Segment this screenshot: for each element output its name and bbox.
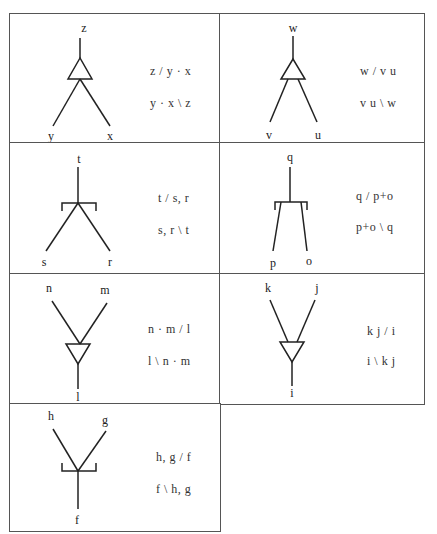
diagram-cell-f: h g f h, g / f f \ h, g xyxy=(9,403,221,532)
merging-tree-bracket-icon: h g f xyxy=(10,404,222,533)
svg-text:t: t xyxy=(77,152,81,166)
diagram-cell-z: z y x z / y · x y · x \ z xyxy=(9,13,221,144)
diagram-cell-w: w v u w / v u v u \ w xyxy=(219,13,425,144)
svg-text:l: l xyxy=(76,390,80,404)
svg-text:u: u xyxy=(315,128,321,142)
formula-backward: f \ h, g xyxy=(156,482,191,497)
svg-text:s: s xyxy=(42,255,47,269)
svg-text:w: w xyxy=(289,21,298,35)
svg-text:p: p xyxy=(270,256,276,270)
svg-text:z: z xyxy=(81,21,86,35)
svg-text:o: o xyxy=(306,254,312,268)
branching-tree-triangle-icon: z y x xyxy=(10,14,222,145)
merging-tree-triangle-icon: n m l xyxy=(10,274,222,406)
formula-forward: z / y · x xyxy=(150,64,191,79)
formula-forward: w / v u xyxy=(360,64,397,79)
svg-text:y: y xyxy=(48,129,54,143)
formula-backward: p+o \ q xyxy=(356,220,394,235)
svg-text:g: g xyxy=(102,413,108,427)
diagram-cell-i: k j i k j / i i \ k j xyxy=(219,273,425,405)
svg-text:i: i xyxy=(290,386,294,400)
formula-forward: t / s, r xyxy=(158,191,189,206)
formula-forward: k j / i xyxy=(367,324,396,339)
svg-text:q: q xyxy=(287,150,293,164)
svg-text:n: n xyxy=(46,281,52,295)
formula-forward: h, g / f xyxy=(156,450,191,465)
formula-backward: y · x \ z xyxy=(150,96,191,111)
formula-backward: s, r \ t xyxy=(158,223,189,238)
formula-forward: n · m / l xyxy=(148,322,191,337)
branching-tree-bracket-icon: t s r xyxy=(10,143,222,276)
formula-backward: l \ n · m xyxy=(148,354,191,369)
svg-text:j: j xyxy=(314,281,318,295)
svg-text:f: f xyxy=(75,513,79,527)
merging-tree-triangle-icon: k j i xyxy=(220,274,426,406)
svg-text:r: r xyxy=(108,255,112,269)
branching-tree-bracket-icon: q p o xyxy=(220,143,426,276)
formula-backward: i \ k j xyxy=(367,354,396,369)
diagram-cell-l: n m l n · m / l l \ n · m xyxy=(9,273,221,405)
svg-text:v: v xyxy=(266,128,272,142)
diagram-cell-t: t s r t / s, r s, r \ t xyxy=(9,142,221,275)
svg-text:x: x xyxy=(107,129,113,143)
diagram-cell-q: q p o q / p+o p+o \ q xyxy=(219,142,425,275)
svg-text:k: k xyxy=(265,281,271,295)
formula-backward: v u \ w xyxy=(360,96,397,111)
svg-text:h: h xyxy=(48,409,54,423)
svg-text:m: m xyxy=(100,283,110,297)
formula-forward: q / p+o xyxy=(356,189,394,204)
branching-tree-triangle-icon: w v u xyxy=(220,14,426,145)
